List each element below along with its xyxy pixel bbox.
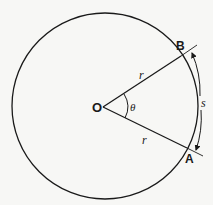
center-label: O [92,100,102,115]
radius-lower-label: r [142,133,147,147]
circle-diagram: O B A r r θ s [0,0,213,205]
arc-length-dimension-lower [196,110,201,150]
point-a-label: A [185,152,194,166]
angle-arc [124,94,128,118]
arc-length-label: s [201,96,206,110]
angle-label: θ [130,101,136,113]
radius-upper-label: r [139,68,144,82]
point-b-label: B [176,39,185,53]
